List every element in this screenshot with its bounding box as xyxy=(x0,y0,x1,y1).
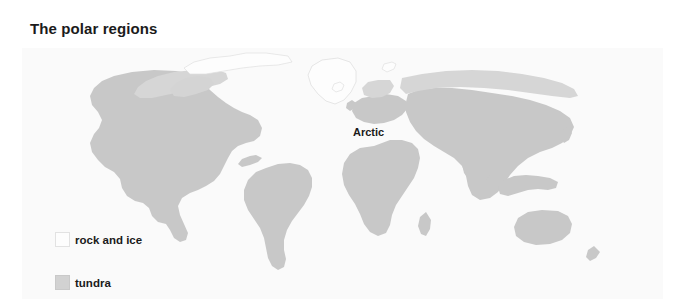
legend-label-rock-and-ice: rock and ice xyxy=(75,234,142,246)
map-label-arctic: Arctic xyxy=(353,126,384,138)
legend-swatch-rock-and-ice xyxy=(55,232,70,247)
world-map-graphic xyxy=(22,48,663,299)
legend-swatch-tundra xyxy=(55,275,70,290)
page-title: The polar regions xyxy=(30,20,158,37)
legend-label-tundra: tundra xyxy=(75,277,111,289)
legend-item-tundra: tundra xyxy=(55,275,111,290)
polar-regions-figure: The polar regions xyxy=(0,0,691,299)
map-panel: Arctic Antarctic xyxy=(22,48,663,299)
legend-item-rock-and-ice: rock and ice xyxy=(55,232,142,247)
